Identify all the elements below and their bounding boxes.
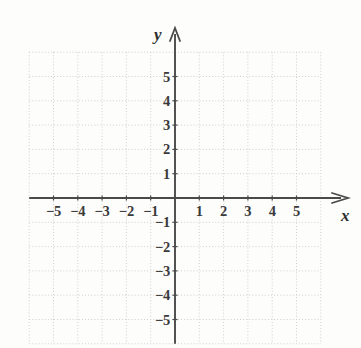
y-tick-label: 3	[163, 118, 170, 133]
y-tick-label: 4	[163, 94, 170, 109]
y-axis-label: y	[154, 26, 162, 43]
x-tick-label: −3	[95, 204, 110, 219]
axis-lines	[29, 28, 348, 344]
y-tick-label: −2	[155, 239, 170, 254]
y-tick-label: −1	[155, 215, 170, 230]
grid-and-axes-svg	[0, 0, 361, 348]
x-tick-label: 5	[293, 204, 300, 219]
x-tick-label: 3	[244, 204, 251, 219]
y-tick-label: 2	[163, 142, 170, 157]
x-tick-label: −2	[119, 204, 134, 219]
y-tick-label: −5	[155, 312, 170, 327]
x-tick-label: 2	[220, 204, 227, 219]
y-tick-label: 5	[163, 69, 170, 84]
y-tick-label: −4	[155, 288, 170, 303]
x-tick-label: −4	[70, 204, 85, 219]
x-tick-label: −5	[46, 204, 61, 219]
x-tick-label: 4	[269, 204, 276, 219]
x-axis-label: x	[341, 207, 350, 224]
coordinate-grid-figure: −5−4−3−2−11234554321−1−2−3−4−5 y x	[0, 0, 361, 348]
y-tick-label: −3	[155, 264, 170, 279]
y-tick-label: 1	[163, 166, 170, 181]
x-tick-label: 1	[196, 204, 203, 219]
